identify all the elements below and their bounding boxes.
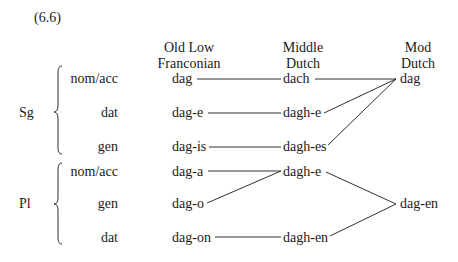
line-daghe-dagen (326, 172, 396, 204)
line-dago-daghe (207, 171, 281, 203)
line-daghe-dag (324, 79, 396, 113)
line-daghes-dag (328, 79, 396, 145)
line-daghen-dagen (330, 204, 396, 236)
brace-plural (54, 163, 62, 244)
brace-singular (54, 66, 62, 154)
connector-lines (0, 0, 458, 262)
